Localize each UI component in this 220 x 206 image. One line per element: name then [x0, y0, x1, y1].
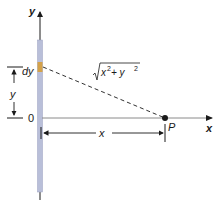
element-label: dy [22, 65, 35, 77]
svg-text:x: x [100, 67, 107, 78]
x-dimension-label: x [98, 127, 105, 139]
point-label: P [168, 121, 176, 133]
rod-element-dy [38, 62, 43, 72]
distance-label: x 2 + y 2 [100, 65, 138, 78]
x-axis-arrow-icon [206, 115, 213, 121]
diagram-canvas: y x 0 dy y x P x 2 + y 2 [0, 0, 220, 206]
x-axis-label: x [205, 122, 213, 134]
origin-label: 0 [28, 112, 34, 124]
y-axis-label: y [28, 5, 36, 17]
svg-text:+ y: + y [111, 67, 126, 78]
svg-text:2: 2 [134, 65, 138, 72]
y-dimension-label: y [9, 88, 17, 100]
